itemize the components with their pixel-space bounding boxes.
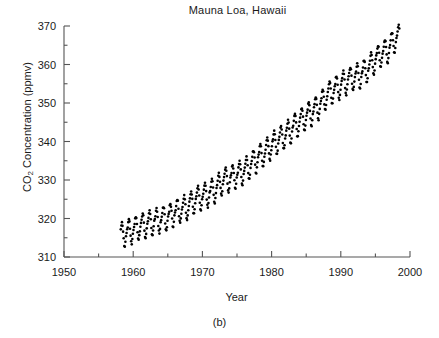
data-point <box>340 83 343 86</box>
data-point <box>370 54 373 57</box>
data-point <box>354 76 357 79</box>
data-point <box>239 163 242 166</box>
data-point <box>215 192 218 195</box>
data-point <box>207 206 210 209</box>
data-point <box>260 152 263 155</box>
data-point <box>146 222 149 225</box>
data-point <box>372 66 375 69</box>
data-point <box>218 176 221 179</box>
data-point <box>256 161 259 164</box>
data-point <box>122 230 125 233</box>
data-point <box>166 226 169 229</box>
data-point <box>387 62 390 65</box>
data-point <box>395 37 398 40</box>
data-point <box>186 219 189 222</box>
data-point <box>191 198 194 201</box>
data-point <box>251 156 254 159</box>
data-point <box>184 203 187 206</box>
data-point <box>240 176 243 179</box>
data-point <box>129 234 132 237</box>
data-point <box>228 181 231 184</box>
data-point <box>183 194 186 197</box>
data-point <box>246 159 249 162</box>
data-point <box>234 187 237 190</box>
data-point <box>396 30 399 33</box>
data-point <box>181 206 184 209</box>
data-point <box>263 161 266 164</box>
data-point <box>135 217 138 220</box>
data-point <box>262 165 265 168</box>
data-point <box>160 215 163 218</box>
data-point <box>172 226 175 229</box>
data-point <box>149 213 152 216</box>
data-point <box>169 203 172 206</box>
data-point <box>136 231 139 234</box>
data-point <box>147 220 150 223</box>
figure-panel: Mauna Loa, Hawaii CO2 Concentration (ppm… <box>0 0 439 338</box>
data-point <box>170 206 173 209</box>
data-point <box>257 156 260 159</box>
data-point <box>303 129 306 132</box>
data-point <box>327 87 330 90</box>
data-point <box>312 113 315 116</box>
data-point <box>343 78 346 81</box>
data-point <box>121 225 124 228</box>
data-point <box>257 153 260 156</box>
data-point <box>368 63 371 66</box>
data-point <box>353 80 356 83</box>
data-point <box>360 76 363 79</box>
data-point <box>250 163 253 166</box>
data-point <box>264 148 267 151</box>
data-point <box>156 216 159 219</box>
data-point <box>271 145 274 148</box>
data-point <box>173 221 176 224</box>
data-point <box>259 143 262 146</box>
data-point <box>164 222 167 225</box>
data-point <box>124 245 127 248</box>
data-point <box>131 238 134 241</box>
data-point <box>145 233 148 236</box>
data-point <box>305 114 308 117</box>
data-point <box>318 113 321 116</box>
data-point <box>258 151 261 154</box>
data-point <box>306 108 309 111</box>
data-point <box>253 156 256 159</box>
data-point <box>342 69 345 72</box>
y-tick-label: 360 <box>38 59 56 71</box>
data-point <box>285 129 288 132</box>
data-point <box>136 223 139 226</box>
data-point <box>263 155 266 158</box>
data-point <box>267 145 270 148</box>
data-point <box>374 58 377 61</box>
data-point <box>248 177 251 180</box>
data-point <box>202 193 205 196</box>
data-point <box>317 119 320 122</box>
data-point <box>250 160 253 163</box>
data-point <box>180 212 183 215</box>
data-point <box>216 179 219 182</box>
data-point <box>209 190 212 193</box>
data-point <box>214 197 217 200</box>
data-point <box>190 190 193 193</box>
data-point <box>196 191 199 194</box>
data-point <box>365 74 368 77</box>
data-point <box>391 32 394 35</box>
data-point <box>227 191 230 194</box>
data-point <box>309 110 312 113</box>
data-point <box>205 198 208 201</box>
data-point <box>163 207 166 210</box>
data-point <box>221 190 224 193</box>
data-point <box>212 194 215 197</box>
data-point <box>228 187 231 190</box>
data-point <box>315 98 318 101</box>
data-point <box>128 220 131 223</box>
data-point <box>238 159 241 162</box>
data-point <box>200 209 203 212</box>
data-point <box>332 97 335 100</box>
data-point <box>219 181 222 184</box>
data-point <box>362 66 365 69</box>
data-point <box>273 129 276 132</box>
data-point <box>181 208 184 211</box>
x-tick-label: 1960 <box>121 266 145 278</box>
data-point <box>198 194 201 197</box>
